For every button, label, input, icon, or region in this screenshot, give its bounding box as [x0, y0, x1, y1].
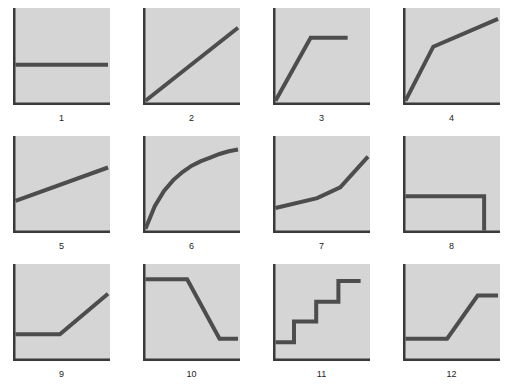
panel-plot-7 — [273, 136, 370, 233]
panel-2: 2 — [143, 8, 240, 125]
plot-background — [273, 264, 370, 361]
plot-background — [13, 264, 110, 361]
panel-label-6: 6 — [143, 241, 240, 252]
panel-plot-4 — [403, 8, 500, 105]
panel-plot-10 — [143, 264, 240, 361]
panel-plot-6 — [143, 136, 240, 233]
panel-12: 12 — [403, 264, 500, 381]
panel-5: 5 — [13, 136, 110, 253]
panel-label-9: 9 — [13, 369, 110, 380]
panel-label-11: 11 — [273, 369, 370, 380]
panel-10: 10 — [143, 264, 240, 381]
panel-7: 7 — [273, 136, 370, 253]
panel-plot-2 — [143, 8, 240, 105]
panel-label-7: 7 — [273, 241, 370, 252]
panel-4: 4 — [403, 8, 500, 125]
panel-label-2: 2 — [143, 113, 240, 124]
plot-background — [13, 8, 110, 105]
panel-label-3: 3 — [273, 113, 370, 124]
panel-plot-1 — [13, 8, 110, 105]
panel-label-1: 1 — [13, 113, 110, 124]
panel-plot-3 — [273, 8, 370, 105]
panel-3: 3 — [273, 8, 370, 125]
panel-label-12: 12 — [403, 369, 500, 380]
panel-9: 9 — [13, 264, 110, 381]
panel-plot-9 — [13, 264, 110, 361]
plot-background — [273, 136, 370, 233]
panel-label-8: 8 — [403, 241, 500, 252]
panel-plot-8 — [403, 136, 500, 233]
panel-plot-12 — [403, 264, 500, 361]
panel-label-4: 4 — [403, 113, 500, 124]
panel-label-5: 5 — [13, 241, 110, 252]
panel-8: 8 — [403, 136, 500, 253]
plot-background — [273, 8, 370, 105]
panel-label-10: 10 — [143, 369, 240, 380]
panel-plot-5 — [13, 136, 110, 233]
small-multiples-figure: 123456789101112 — [0, 0, 516, 386]
panel-1: 1 — [13, 8, 110, 125]
plot-background — [403, 264, 500, 361]
panel-plot-11 — [273, 264, 370, 361]
panel-6: 6 — [143, 136, 240, 253]
panel-11: 11 — [273, 264, 370, 381]
